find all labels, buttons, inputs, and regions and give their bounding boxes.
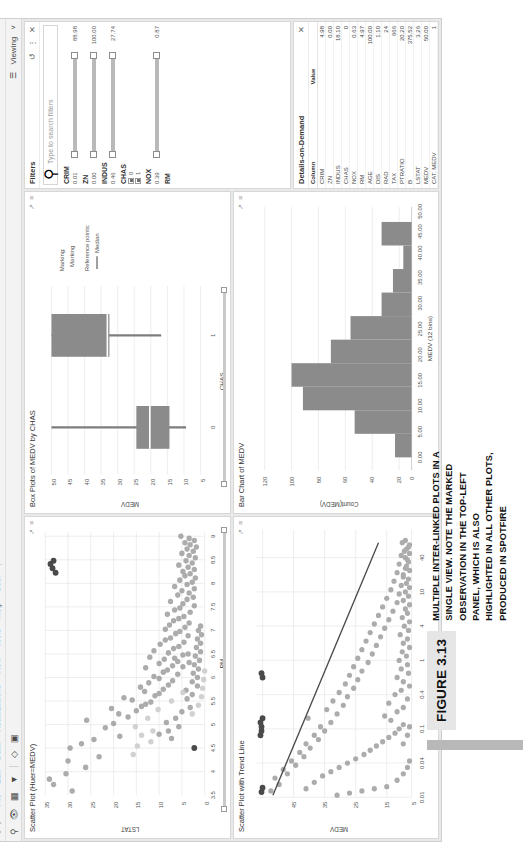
slider-handle-max[interactable] — [153, 52, 160, 59]
table-row[interactable]: RM4.97 — [358, 22, 366, 188]
slider-track[interactable] — [92, 53, 96, 157]
filter-chas[interactable]: CHAS 0 1 — [120, 26, 141, 184]
panel-boxplot-medv-chas[interactable]: Box Plots of MEDV by CHAS ↗ ≡ — [24, 191, 231, 514]
slider-track[interactable] — [111, 53, 115, 157]
slider-handle-min[interactable] — [90, 151, 97, 158]
slider-track[interactable] — [73, 53, 77, 157]
table-row[interactable]: B375.52 — [406, 22, 414, 188]
slider-handle-min[interactable] — [153, 151, 160, 158]
svg-text:80: 80 — [315, 476, 321, 483]
filter-range[interactable]: 0.01 88.98 — [72, 26, 78, 184]
viewing-mode-label[interactable]: Viewing — [9, 37, 18, 65]
menu-item-view[interactable]: View — [0, 652, 2, 679]
table-row[interactable]: CRIM4.98 — [318, 22, 326, 188]
slider-handle-max[interactable] — [109, 52, 116, 59]
panel-maximize-icon[interactable]: ↗ — [28, 529, 36, 535]
cell-value: 666 — [390, 22, 398, 88]
slider-handle-min[interactable] — [71, 151, 78, 158]
table-row[interactable]: LSTAT3.26 — [414, 22, 422, 188]
close-icon[interactable]: ✕ — [297, 26, 306, 33]
filter-checkbox-1[interactable]: 1 — [135, 26, 141, 184]
filter-rm[interactable]: RM — [164, 26, 171, 184]
reset-icon[interactable]: ↺ — [28, 53, 37, 60]
filter-range[interactable]: 0.46 27.74 — [110, 26, 116, 184]
slider-track[interactable] — [155, 53, 159, 157]
filter-indus[interactable]: INDUS 0.46 27.74 — [101, 26, 116, 184]
x-range-slider[interactable] — [221, 527, 228, 812]
panel-menu-icon[interactable]: ≡ — [28, 196, 36, 200]
panel-menu-icon[interactable]: ≡ — [237, 196, 245, 200]
menu-item-tools[interactable]: Tools — [0, 624, 2, 653]
panel-body[interactable]: 0 5 10 15 20 25 30 35 3. — [37, 517, 230, 838]
legend-refpoints-title: Reference points: — [84, 224, 90, 271]
filter-zn[interactable]: ZN 0.00 100.00 — [82, 26, 97, 184]
x-range-slider[interactable] — [221, 287, 228, 487]
undo-icon[interactable]: ↺ — [0, 545, 2, 559]
panel-scatter-lstat-rm[interactable]: Scatter Plot (Huer=MEDV) ↗ ≡ — [24, 516, 231, 839]
panel-maximize-icon[interactable]: ↗ — [237, 529, 245, 535]
chevron-down-icon[interactable]: ˅ — [9, 25, 18, 30]
svg-text:25: 25 — [352, 801, 358, 808]
menu-item-user[interactable]: User — [0, 570, 2, 597]
menu-item-data[interactable]: Data — [0, 738, 2, 765]
slider-handle-left[interactable] — [221, 481, 227, 487]
cell-value: 4.97 — [358, 22, 366, 88]
panel-maximize-icon[interactable]: ↗ — [237, 204, 245, 210]
filters-search[interactable]: ⚲ Type to search filters — [43, 25, 58, 185]
filter-crim[interactable]: CRIM 0.01 88.98 — [63, 26, 78, 184]
menu-item-edit[interactable]: Edit — [0, 765, 2, 789]
slider-handle-min[interactable] — [109, 151, 116, 158]
panel-barchart-medv[interactable]: Bar Chart of MEDV ↗ ≡ — [233, 191, 440, 514]
slider-handle-right[interactable] — [221, 527, 227, 533]
cell-value: 375.52 — [406, 22, 414, 88]
table-row[interactable]: TAX666 — [390, 22, 398, 188]
y-axis-title: MEDV — [329, 826, 348, 833]
panel-body[interactable]: 5 15 25 35 45 0.01 0.04 0.1 — [246, 517, 439, 838]
filter-range[interactable]: 0.00 100.00 — [91, 26, 97, 184]
table-row[interactable]: AGE100.00 — [366, 22, 374, 188]
table-row[interactable]: PTRATIO20.20 — [398, 22, 406, 188]
bookmark-icon[interactable]: ▦ — [9, 792, 19, 801]
table-row[interactable]: CAT. MEDV1 — [430, 22, 438, 188]
menu-item-help[interactable]: Help — [0, 597, 2, 623]
cell-column: MEDV — [422, 88, 430, 188]
panel-body[interactable]: 0 20 40 60 80 100 120 0.00 — [246, 192, 439, 513]
redo-icon[interactable]: ↻ — [0, 531, 2, 545]
slider-handle-max[interactable] — [90, 52, 97, 59]
menu-grip-icon[interactable]: ⋮⋮ — [0, 818, 2, 836]
filter-checkbox-0[interactable]: 0 — [128, 26, 134, 184]
diamond-icon[interactable]: ◇ — [9, 751, 19, 758]
y-axis-title: MEDV — [120, 501, 139, 508]
marked-points — [257, 670, 265, 795]
table-row[interactable]: INDUS18.10 — [334, 22, 342, 188]
table-row[interactable]: CHAS0 — [342, 22, 350, 188]
table-row[interactable]: NOX0.63 — [350, 22, 358, 188]
panel-menu-icon[interactable]: ≡ — [28, 521, 36, 525]
settings-icon[interactable]: ⋮ — [28, 39, 37, 47]
close-icon[interactable]: ✕ — [28, 26, 37, 33]
panel-maximize-icon[interactable]: ↗ — [28, 204, 36, 210]
collaborate-icon[interactable]: ☰ — [9, 72, 18, 79]
filter-icon[interactable]: ▼ — [9, 775, 19, 784]
table-row[interactable]: ZN0.00 — [326, 22, 334, 188]
checkbox[interactable] — [135, 178, 141, 184]
panel-menu-icon[interactable]: ≡ — [237, 521, 245, 525]
table-row[interactable]: RAD24 — [382, 22, 390, 188]
filter-nox[interactable]: NOX 0.39 0.87 — [145, 26, 160, 184]
checkbox[interactable] — [128, 178, 134, 184]
menu-item-visualizations[interactable]: Visualizations — [0, 680, 2, 739]
menu-item-file[interactable]: File — [0, 789, 2, 812]
panel-body[interactable]: 5 10 15 20 25 30 35 40 4 — [37, 192, 230, 513]
slider-handle-left[interactable] — [221, 806, 227, 812]
search-icon[interactable]: ⚲ — [9, 828, 19, 835]
slider-handle-right[interactable] — [221, 287, 227, 293]
svg-text:0.01: 0.01 — [419, 792, 425, 804]
page-icon[interactable]: ▣ — [9, 734, 19, 743]
filters-panel: Filters ↺ ⋮ ✕ ⚲ Type to search filters — [24, 21, 291, 189]
table-row[interactable]: DIS1.10 — [374, 22, 382, 188]
panel-scatter-trendline[interactable]: Scatter Plot with Trend Line ↗ ≡ — [233, 516, 440, 839]
table-row[interactable]: MEDV50.00 — [422, 22, 430, 188]
filter-range[interactable]: 0.39 0.87 — [154, 26, 160, 184]
eye-icon[interactable]: 👁 — [9, 809, 19, 820]
slider-handle-max[interactable] — [71, 52, 78, 59]
